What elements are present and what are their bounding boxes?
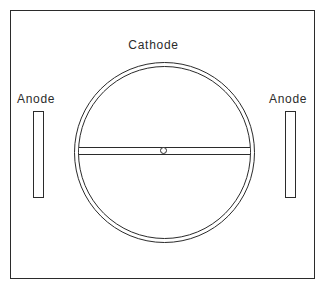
anode-right-plate — [285, 111, 296, 198]
apparatus-outline: Cathode Anode Anode — [10, 10, 315, 279]
anode-left-label: Anode — [17, 93, 55, 105]
cathode-label: Cathode — [1, 39, 306, 51]
diagram-canvas: Cathode Anode Anode — [0, 0, 327, 292]
anode-right-label: Anode — [269, 93, 307, 105]
anode-left-plate — [33, 111, 44, 198]
center-marker-icon — [160, 147, 167, 154]
